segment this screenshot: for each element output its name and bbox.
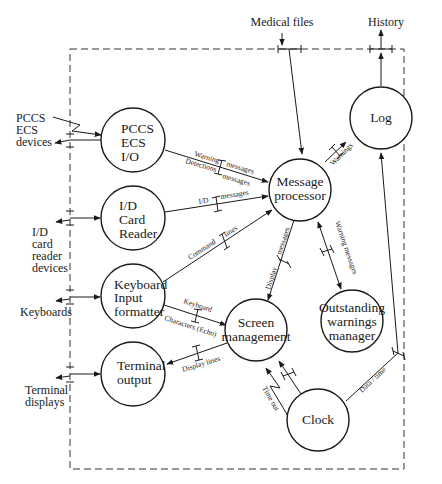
svg-text:devices: devices [16, 135, 52, 149]
label-display-messages: messages [274, 226, 291, 256]
svg-text:Log: Log [370, 110, 392, 125]
svg-text:Clock: Clock [302, 412, 334, 427]
svg-text:processor: processor [274, 188, 326, 203]
flow-pccs-devices [53, 117, 101, 147]
flow-data-time [346, 153, 405, 401]
external-pccs-devices: PCCS ECS devices [16, 111, 52, 149]
label-id-messages: messages [220, 188, 249, 201]
svg-text:management: management [222, 329, 291, 344]
process-clock[interactable]: Clock [287, 389, 349, 451]
process-id-card-reader[interactable]: I/D Card Reader [101, 186, 165, 250]
label-warnings: Warnings [328, 141, 355, 168]
svg-text:I/O: I/O [121, 149, 139, 164]
process-log[interactable]: Log [350, 87, 412, 149]
process-screen-management[interactable]: Screen management [222, 299, 291, 361]
label-data-time: Data / time [357, 365, 388, 395]
svg-text:Input: Input [114, 290, 143, 305]
process-outstanding-warnings-manager[interactable]: Outstanding warnings manager [319, 290, 385, 352]
svg-text:Reader: Reader [119, 226, 158, 241]
svg-text:ECS: ECS [121, 135, 146, 150]
process-terminal-output[interactable]: Terminal output [101, 342, 166, 406]
data-flow-diagram: PCCS ECS I/O I/D Card Reader Keyboard In… [0, 0, 442, 484]
svg-text:output: output [117, 372, 152, 387]
svg-text:displays: displays [25, 395, 65, 409]
external-idcard-devices: I/D card reader devices [32, 225, 68, 275]
flow-id-messages [165, 196, 268, 212]
flow-history [370, 30, 392, 86]
label-outstanding-warning-messages: Warning messages [333, 220, 360, 276]
label-command-lines: lines [222, 223, 239, 238]
flow-keyboards [56, 290, 100, 304]
svg-text:Screen: Screen [238, 315, 275, 330]
label-characters-echo: Characters (Echo) [163, 313, 218, 339]
label-display: Display [263, 265, 279, 290]
external-keyboards: Keyboards [20, 305, 72, 319]
svg-text:PCCS: PCCS [121, 121, 154, 136]
external-history: History [368, 15, 404, 29]
svg-text:I/D: I/D [119, 198, 137, 213]
external-medical-files: Medical files [251, 15, 314, 29]
label-time-out: Time out [260, 385, 282, 414]
svg-text:manager: manager [329, 328, 376, 343]
svg-text:warnings: warnings [327, 314, 377, 329]
svg-text:Terminal: Terminal [117, 358, 166, 373]
external-terminal-displays: Terminal displays [25, 383, 69, 409]
flow-idcard-devices [56, 211, 100, 225]
flow-medical-files [278, 33, 302, 154]
flow-terminal-displays [56, 367, 100, 382]
process-pccs-io[interactable]: PCCS ECS I/O [101, 108, 165, 172]
label-keyboard: Keyboard [182, 296, 213, 314]
label-id: I/D [198, 195, 210, 206]
svg-text:Message: Message [276, 174, 323, 189]
svg-text:formatter: formatter [114, 304, 165, 319]
process-keyboard-input-formatter[interactable]: Keyboard Input formatter [101, 264, 167, 328]
flow-command-lines [163, 210, 272, 282]
svg-text:Outstanding: Outstanding [319, 300, 385, 315]
process-message-processor[interactable]: Message processor [269, 159, 331, 221]
svg-text:devices: devices [32, 261, 68, 275]
svg-text:Card: Card [119, 212, 145, 227]
